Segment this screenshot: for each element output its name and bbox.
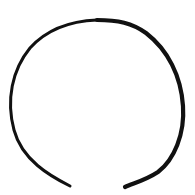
drawing-canvas: Hand-drawn open circle with a gap at the… bbox=[0, 0, 195, 195]
open-circle-left-stroke bbox=[11, 20, 97, 186]
open-circle-icon bbox=[0, 0, 195, 195]
open-circle-right-stroke bbox=[97, 20, 183, 187]
